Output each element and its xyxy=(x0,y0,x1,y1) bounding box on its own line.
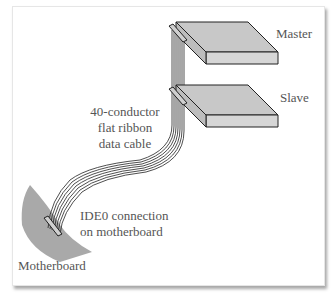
ide0-label: IDE0 connection on motherboard xyxy=(80,208,168,240)
ide0-label-line1: IDE0 connection xyxy=(80,208,168,224)
cable-label: 40-conductor flat ribbon data cable xyxy=(82,104,168,152)
master-label: Master xyxy=(276,26,312,42)
motherboard-label: Motherboard xyxy=(18,258,86,274)
cable-label-line2: flat ribbon xyxy=(82,120,168,136)
cable-label-line3: data cable xyxy=(82,136,168,152)
master-drive xyxy=(176,22,278,64)
slave-label: Slave xyxy=(280,90,309,106)
cable-label-line1: 40-conductor xyxy=(82,104,168,120)
slave-drive xyxy=(176,85,278,127)
ide0-label-line2: on motherboard xyxy=(80,224,168,240)
